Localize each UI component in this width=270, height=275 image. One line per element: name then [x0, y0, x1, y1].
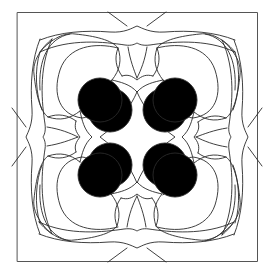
- line-art-canvas: [0, 0, 270, 275]
- outer-frame: [18, 13, 258, 262]
- corner-lobes: [36, 34, 238, 241]
- center-diamond: [78, 78, 197, 197]
- pattern-quadrant: [40, 12, 235, 92]
- stained-glass-pattern: [0, 0, 270, 275]
